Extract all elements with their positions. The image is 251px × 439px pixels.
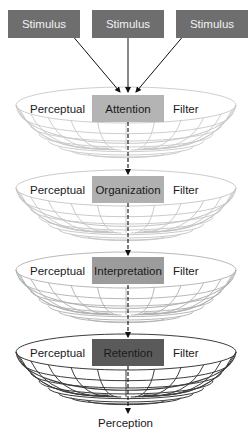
filter-label: Filter <box>173 102 199 116</box>
filter-label: Filter <box>173 346 199 360</box>
stage-label: Retention <box>103 347 152 359</box>
stage-label: Attention <box>105 103 150 115</box>
stimulus-box-2: Stimulus <box>92 10 164 38</box>
perceptual-label: Perceptual <box>30 346 85 360</box>
perceptual-label: Perceptual <box>30 264 85 278</box>
filter-label: Filter <box>173 264 199 278</box>
stimulus-label: Stimulus <box>190 18 234 30</box>
stage-box-organization: Organization <box>92 176 164 203</box>
stimulus-label: Stimulus <box>106 18 150 30</box>
stimulus-box-1: Stimulus <box>8 10 80 38</box>
perceptual-label: Perceptual <box>30 102 85 116</box>
diagram-graphics <box>0 0 251 439</box>
stimulus-box-3: Stimulus <box>176 10 248 38</box>
stage-label: Interpretation <box>94 265 162 277</box>
stage-box-attention: Attention <box>92 95 164 122</box>
perceptual-label: Perceptual <box>30 183 85 197</box>
output-label: Perception <box>0 417 251 429</box>
stage-box-interpretation: Interpretation <box>92 257 164 284</box>
stimulus-label: Stimulus <box>22 18 66 30</box>
filter-label: Filter <box>173 183 199 197</box>
perceptual-filter-diagram: Stimulus Stimulus Stimulus Perceptual At… <box>0 0 251 439</box>
stage-label: Organization <box>95 184 160 196</box>
stage-box-retention: Retention <box>92 339 164 366</box>
